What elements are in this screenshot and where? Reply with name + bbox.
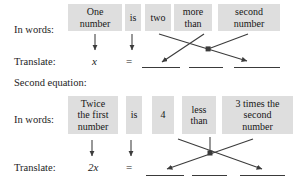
eq2-phrase-less-than-line-1: than <box>190 115 207 126</box>
eq2-phrase-twice-the-first-number-line-1: the first <box>78 109 109 120</box>
eq1-phrase-two: two <box>145 4 171 31</box>
eq1-phrase-more-than-line-1: than <box>184 18 201 29</box>
eq1-arrow-more-than-to-blank-1 <box>162 34 204 62</box>
eq2-phrase-twice-the-first-number: Twice the first number <box>68 96 118 134</box>
eq2-phrase-four-line-0: 4 <box>161 109 166 120</box>
eq1-arrow-second-number-tail <box>208 34 248 49</box>
eq2-crossing-marker <box>208 151 213 156</box>
eq2-phrase-twice-the-first-number-line-0: Twice <box>81 98 105 109</box>
eq2-phrase-three-times-the-second-number: 3 times the second number <box>222 96 293 134</box>
second-equation-heading: Second equation: <box>14 77 87 89</box>
eq2-phrase-three-times-the-second-number-line-1: second <box>244 109 272 120</box>
eq1-blank-3[interactable] <box>234 67 280 68</box>
eq2-in-words-label: In words: <box>14 114 54 126</box>
eq2-phrase-is-line-0: is <box>131 109 138 120</box>
eq1-phrase-one-number-line-1: number <box>80 18 111 29</box>
worked-example-figure: In words: One number is two more than se… <box>0 0 295 184</box>
eq1-phrase-second-number-line-1: number <box>234 18 265 29</box>
eq1-phrase-more-than: more than <box>174 4 212 31</box>
eq1-translate-label: Translate: <box>14 56 56 68</box>
eq2-blank-3[interactable] <box>240 175 285 176</box>
eq1-arrow-two-to-blank-3 <box>159 34 247 61</box>
eq1-phrase-is: is <box>125 4 141 31</box>
eq2-arrow-three-times-to-blank-1 <box>167 139 253 169</box>
eq2-phrase-three-times-the-second-number-line-0: 3 times the <box>236 98 280 109</box>
eq2-phrase-less-than: less than <box>182 96 216 134</box>
eq2-phrase-three-times-the-second-number-line-2: number <box>242 121 273 132</box>
eq1-token-x: x <box>92 55 97 67</box>
eq2-translate-label: Translate: <box>14 162 56 174</box>
eq2-phrase-four: 4 <box>152 96 174 134</box>
eq1-phrase-is-line-0: is <box>130 12 137 23</box>
eq1-crossing-marker <box>206 46 211 51</box>
eq1-phrase-one-number-line-0: One <box>87 6 104 17</box>
eq2-arrow-four-to-blank-3 <box>178 139 262 169</box>
eq2-token-two-x: 2x <box>88 161 98 173</box>
eq1-phrase-one-number: One number <box>68 4 122 31</box>
eq2-phrase-is: is <box>126 96 142 134</box>
eq2-token-equals: = <box>126 161 132 173</box>
eq2-blank-2[interactable] <box>192 175 227 176</box>
eq2-blank-1[interactable] <box>146 175 184 176</box>
eq1-blank-2[interactable] <box>189 67 223 68</box>
eq1-phrase-second-number-line-0: second <box>235 6 263 17</box>
eq1-in-words-label: In words: <box>14 24 54 36</box>
eq1-phrase-two-line-0: two <box>151 12 166 23</box>
eq1-token-equals: = <box>126 55 132 67</box>
eq1-phrase-more-than-line-0: more <box>183 6 204 17</box>
eq2-phrase-twice-the-first-number-line-2: number <box>78 121 109 132</box>
eq1-phrase-second-number: second number <box>218 4 280 31</box>
eq1-blank-1[interactable] <box>142 67 180 68</box>
eq2-phrase-less-than-line-0: less <box>192 104 207 115</box>
